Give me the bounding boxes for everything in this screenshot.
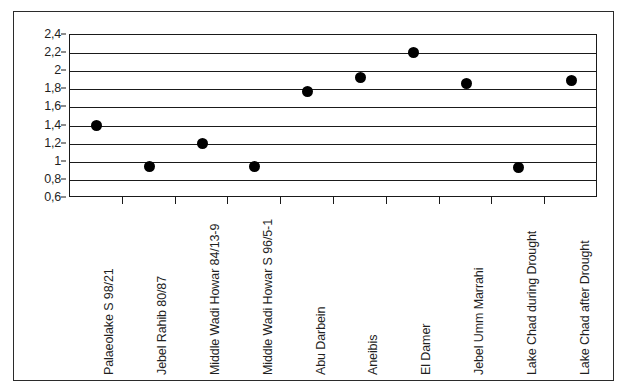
- x-axis-category-label-text: Palaeolake S 98/21: [101, 205, 117, 375]
- x-axis-category-label: El Damer: [418, 205, 434, 375]
- x-axis-tick-mark: [122, 197, 123, 204]
- y-axis-tick-mark: [61, 106, 66, 107]
- x-axis-tick-mark: [439, 197, 440, 204]
- y-axis-tick-label: 2,2: [44, 45, 61, 59]
- x-axis-category-label: Middle Wadi Howar S 96/5-1: [260, 205, 276, 375]
- x-axis-tick-marks: [69, 197, 597, 204]
- data-point: [513, 162, 524, 173]
- gridline: [70, 107, 596, 108]
- x-axis-category-label: Jebel Rahib 80/87: [154, 205, 170, 375]
- x-axis-category-label: Jebel Umm Marrahi: [471, 205, 487, 375]
- data-point: [355, 72, 366, 83]
- gridline: [70, 180, 596, 181]
- y-axis-tick-label: 0,6: [44, 190, 61, 204]
- y-axis-tick-label: 2: [54, 63, 61, 77]
- x-axis-tick-mark: [227, 197, 228, 204]
- x-axis-category-label-text: Jebel Rahib 80/87: [154, 205, 170, 375]
- x-axis-category-label: Aneibis: [365, 205, 381, 375]
- x-axis-category-label: Lake Chad after Drought: [577, 205, 593, 375]
- y-axis-tick-label: 1,2: [44, 136, 61, 150]
- data-point: [197, 138, 208, 149]
- y-axis-tick-label: 1,8: [44, 81, 61, 95]
- y-axis-tick-mark: [61, 197, 66, 198]
- x-axis-category-label-text: Lake Chad during Drought: [524, 205, 540, 375]
- x-axis-category-label-text: Abu Darbein: [313, 205, 329, 375]
- data-point: [566, 75, 577, 86]
- x-axis-tick-mark: [333, 197, 334, 204]
- y-axis-tick-mark: [61, 124, 66, 125]
- y-axis-tick-mark: [61, 34, 66, 35]
- plot-area: [69, 34, 597, 197]
- data-point: [144, 161, 155, 172]
- x-axis-category-label-text: Middle Wadi Howar S 96/5-1: [260, 205, 276, 375]
- y-axis-tick-mark: [61, 142, 66, 143]
- y-axis: 2,42,221,81,61,41,210,80,6: [14, 34, 66, 197]
- x-axis-category-label-text: Jebel Umm Marrahi: [471, 205, 487, 375]
- x-axis-category-label: Palaeolake S 98/21: [101, 205, 117, 375]
- data-point: [249, 161, 260, 172]
- y-axis-tick-mark: [61, 70, 66, 71]
- data-point: [302, 86, 313, 97]
- y-axis-tick-label: 0,8: [44, 172, 61, 186]
- y-axis-tick-mark: [61, 160, 66, 161]
- x-axis-category-label: Middle Wadi Howar 84/13-9: [207, 205, 223, 375]
- x-axis-category-label-text: Lake Chad after Drought: [577, 205, 593, 375]
- y-axis-tick-mark: [61, 178, 66, 179]
- data-point: [461, 78, 472, 89]
- x-axis-tick-mark: [386, 197, 387, 204]
- x-axis-category-label-text: Aneibis: [365, 205, 381, 375]
- x-axis-tick-mark: [491, 197, 492, 204]
- gridline: [70, 126, 596, 127]
- x-axis-tick-mark: [175, 197, 176, 204]
- data-point: [91, 120, 102, 131]
- y-axis-tick-label: 1,6: [44, 99, 61, 113]
- y-axis-tick-label: 1: [54, 154, 61, 168]
- x-axis-category-label: Lake Chad during Drought: [524, 205, 540, 375]
- data-point: [408, 47, 419, 58]
- y-axis-tick-label: 2,4: [44, 27, 61, 41]
- x-axis-category-label-text: Middle Wadi Howar 84/13-9: [207, 205, 223, 375]
- y-axis-tick-mark: [61, 88, 66, 89]
- gridline: [70, 53, 596, 54]
- gridline: [70, 144, 596, 145]
- y-axis-tick-mark: [61, 52, 66, 53]
- x-axis-category-label-text: El Damer: [418, 205, 434, 375]
- x-axis-tick-mark: [544, 197, 545, 204]
- x-axis-tick-mark: [280, 197, 281, 204]
- x-axis-category-labels: Palaeolake S 98/21Jebel Rahib 80/87Middl…: [69, 205, 597, 375]
- gridline: [70, 71, 596, 72]
- gridline: [70, 89, 596, 90]
- x-axis-category-label: Abu Darbein: [313, 205, 329, 375]
- y-axis-tick-label: 1,4: [44, 118, 61, 132]
- chart-outer-frame: 2,42,221,81,61,41,210,80,6 Palaeolake S …: [13, 11, 614, 381]
